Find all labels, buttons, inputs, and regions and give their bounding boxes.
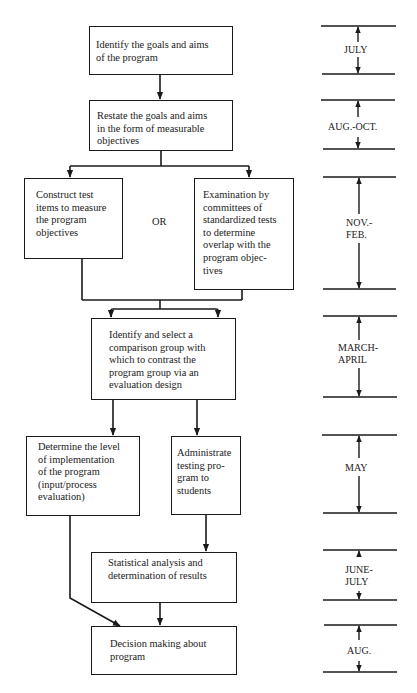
step-label: Statistical analysis and determination o…: [108, 557, 207, 582]
step-label: Restate the goals and aims in the form o…: [97, 110, 207, 148]
step-label: Identify the goals and aims of the progr…: [96, 39, 209, 64]
step-statistical-analysis: Statistical analysis and determination o…: [91, 552, 237, 603]
timeline-period-nov-feb: NOV.- FEB.: [346, 216, 372, 241]
timeline-period-march-april: MARCH- APRIL: [338, 341, 378, 366]
or-label: OR: [152, 216, 166, 227]
step-decision-making: Decision making about program: [91, 626, 237, 675]
step-label: Determine the level of implementation of…: [38, 441, 120, 504]
step-label: Administrate testing pro- gram to studen…: [177, 447, 231, 497]
step-label: Identify and select a comparison group w…: [109, 329, 205, 392]
step-label: Construct test items to measure the prog…: [36, 189, 106, 239]
timeline-period-june-july: JUNE- JULY: [345, 563, 373, 588]
timeline-period-may: MAY: [345, 461, 367, 475]
timeline-period-aug: AUG.: [347, 644, 371, 658]
step-restate-goals: Restate the goals and aims in the form o…: [89, 100, 233, 151]
step-examination: Examination by committees of standardize…: [194, 178, 294, 290]
step-construct-test: Construct test items to measure the prog…: [24, 178, 123, 259]
step-identify-goals: Identify the goals and aims of the progr…: [89, 26, 233, 75]
step-identify-comparison-group: Identify and select a comparison group w…: [91, 318, 236, 400]
step-label: Decision making about program: [110, 638, 206, 663]
step-label: Examination by committees of standardize…: [203, 189, 277, 277]
step-administrate-testing: Administrate testing pro- gram to studen…: [171, 436, 241, 515]
timeline-period-july: JULY: [344, 43, 367, 57]
evaluation-flowchart: Identify the goals and aims of the progr…: [0, 0, 417, 693]
timeline-period-aug-oct: AUG.-OCT.: [328, 120, 377, 134]
step-determine-implementation: Determine the level of implementation of…: [26, 436, 140, 516]
